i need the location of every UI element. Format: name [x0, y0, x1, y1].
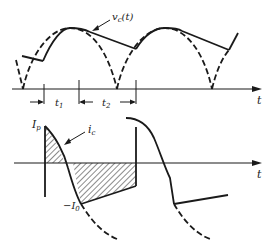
bottom-axis-arrowhead [252, 160, 262, 166]
bottom-panel: t Ip ic −I0 [14, 118, 262, 239]
vc-charge-2 [136, 28, 182, 49]
ic-dashed-tail-2 [174, 204, 210, 239]
ic-pointer-arrowhead [64, 138, 71, 145]
i0-label: −I0 [63, 200, 80, 213]
top-axis-label: t [257, 94, 262, 107]
top-panel: t vc(t) t1 t2 [12, 11, 262, 110]
t2-left-arrowhead [79, 100, 85, 105]
t2-label: t2 [102, 97, 111, 110]
bottom-axis-label: t [257, 168, 262, 181]
vc-label: vc(t) [112, 11, 133, 24]
rectified-sine-partial-left [16, 60, 23, 89]
vc-pointer-arrowhead [92, 25, 99, 31]
ic-discharge-2 [174, 195, 228, 204]
charging-area-hatch [45, 126, 65, 163]
rectifier-waveform-diagram: t vc(t) t1 t2 [0, 0, 274, 252]
ic-pointer-line [68, 132, 85, 142]
top-axis-arrowhead [252, 86, 262, 92]
discharging-area-hatch [73, 163, 136, 204]
t2-right-arrowhead [130, 100, 136, 105]
vc-discharge-1 [90, 32, 136, 49]
ic-charging-2 [126, 118, 174, 204]
t1-arrowhead [38, 100, 44, 105]
vc-charge-3 [229, 33, 238, 50]
rectified-sine-arch-3-start [212, 50, 229, 89]
t1-label: t1 [55, 97, 64, 110]
vc-charge-1 [43, 28, 90, 61]
ic-dashed-tail-1 [81, 204, 117, 239]
ic-label: ic [88, 123, 96, 137]
ip-label: Ip [31, 118, 41, 132]
